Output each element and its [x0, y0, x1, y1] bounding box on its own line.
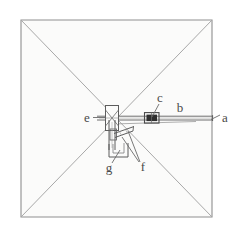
label-a: a — [222, 110, 228, 125]
figure-canvas: a b c e f g — [0, 0, 238, 244]
label-b: b — [177, 100, 184, 115]
label-f: f — [141, 159, 146, 174]
label-g: g — [106, 160, 113, 175]
label-c: c — [157, 90, 163, 105]
technical-drawing-svg: a b c e f g — [0, 0, 238, 244]
label-e: e — [84, 110, 90, 125]
diagonal-arm-endcap — [133, 127, 134, 132]
